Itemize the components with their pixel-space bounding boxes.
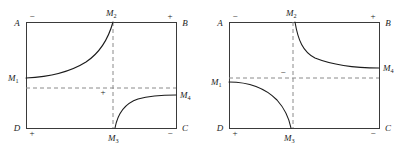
figure-root: A B C D − + + − + M1 M2 M3 M4 [0,0,407,147]
panel-left-curve-m1-m2 [26,22,113,78]
panel-left-label-m3: M3 [107,133,119,144]
panel-right-curve-m1-m3 [229,82,291,128]
panel-left-label-m4: M4 [179,90,191,101]
diagram-panel-left: A B C D − + + − + M1 M2 M3 M4 [0,0,204,147]
panel-right-rectangle-frame [229,22,379,128]
panel-left-label-m2: M2 [105,8,117,19]
panel-left-corner-label-b: B [182,18,188,28]
panel-right-corner-label-b: B [385,18,391,28]
panel-right-label-m2: M2 [285,8,297,19]
panel-left-sign-top-right: + [167,11,172,21]
panel-right-corner-label-d: D [216,123,224,133]
panel-right-sign-top-right: + [370,11,375,21]
panel-right-interior-sign: − [280,67,285,77]
panel-right-label-m3: M3 [283,133,295,144]
panel-left-curve-m3-m4 [115,95,176,128]
panel-right-corner-label-c: C [385,123,392,133]
panel-right-sign-bottom-left: + [232,128,237,138]
diagram-panel-right: A B C D − + + − − M1 M2 M3 M4 [203,0,407,147]
panel-right-curve-m2-m4 [295,22,379,68]
panel-right-sign-top-left: − [232,11,237,21]
panel-left-corner-label-c: C [182,123,189,133]
panel-right-label-m1: M1 [210,77,222,88]
panel-left-corner-label-d: D [13,123,21,133]
panel-left-rectangle-frame [26,22,176,128]
panel-right-corner-label-a: A [216,18,223,28]
panel-left-sign-bottom-left: + [29,128,34,138]
panel-left-interior-sign: + [100,87,105,97]
panel-left-corner-label-a: A [13,18,20,28]
panel-right-sign-bottom-right: − [370,128,375,138]
panel-left-label-m1: M1 [7,73,19,84]
panel-left-sign-top-left: − [29,11,34,21]
panel-right-label-m4: M4 [382,63,394,74]
panel-left-sign-bottom-right: − [167,128,172,138]
